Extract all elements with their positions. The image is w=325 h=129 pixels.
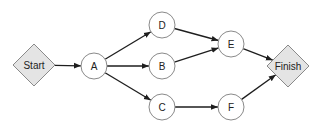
- node-d: D: [149, 12, 175, 38]
- node-label: C: [158, 102, 165, 113]
- node-label: D: [158, 20, 165, 31]
- edge-b-to-e: [174, 48, 218, 62]
- edge-a-to-d: [105, 32, 151, 60]
- node-c: C: [149, 94, 175, 120]
- node-b: B: [149, 53, 175, 79]
- edge-f-to-finish: [242, 75, 276, 100]
- edge-a-to-c: [105, 73, 151, 101]
- node-label: A: [91, 61, 98, 72]
- edge-start-to-a: [55, 65, 81, 66]
- node-a: A: [81, 53, 107, 79]
- node-label: E: [228, 39, 235, 50]
- node-e: E: [218, 31, 244, 57]
- node-finish: Finish: [267, 45, 309, 87]
- node-label: F: [228, 102, 234, 113]
- network-diagram: StartADBCEFFinish: [0, 0, 325, 129]
- node-start: Start: [13, 44, 55, 86]
- edge-e-to-finish: [243, 49, 273, 61]
- node-f: F: [218, 94, 244, 120]
- edge-d-to-e: [175, 29, 219, 41]
- node-label: Finish: [275, 61, 302, 72]
- node-label: B: [159, 61, 166, 72]
- node-label: Start: [23, 60, 44, 71]
